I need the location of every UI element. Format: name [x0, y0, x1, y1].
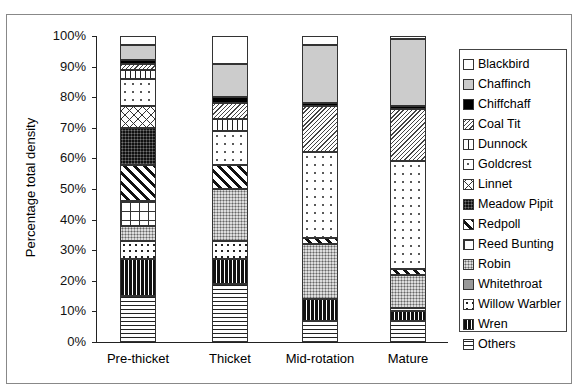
- legend-item: Robin: [463, 254, 563, 274]
- y-tick-label: 70%: [40, 120, 86, 135]
- legend-item: Willow Warbler: [463, 294, 563, 314]
- bar-segment: [120, 296, 156, 342]
- legend-item: Goldcrest: [463, 154, 563, 174]
- bar-segment: [120, 60, 156, 63]
- bar-segment: [390, 269, 426, 275]
- bar-segment: [120, 36, 156, 45]
- legend-item: Others: [463, 334, 563, 354]
- bar-segment: [390, 308, 426, 311]
- bar-segment: [212, 119, 248, 131]
- legend-swatch-icon: [463, 159, 474, 170]
- legend-item: Reed Bunting: [463, 234, 563, 254]
- legend-swatch-icon: [463, 219, 474, 230]
- y-tick-label: 0%: [40, 334, 86, 349]
- bar-segment: [120, 201, 156, 225]
- legend-item: Wren: [463, 314, 563, 334]
- x-axis: [96, 342, 448, 343]
- y-tick-label: 40%: [40, 212, 86, 227]
- bar-segment: [302, 103, 338, 106]
- y-tick-label: 100%: [40, 28, 86, 43]
- bar-segment: [302, 106, 338, 152]
- x-tick-label: Mature: [358, 351, 458, 366]
- bar-segment: [212, 259, 248, 283]
- legend-swatch-icon: [463, 339, 474, 350]
- bar-segment: [302, 321, 338, 342]
- legend-item: Dunnock: [463, 134, 563, 154]
- legend-swatch-icon: [463, 119, 474, 130]
- y-axis: [96, 36, 97, 343]
- legend-swatch-icon: [463, 179, 474, 190]
- bar-segment: [390, 321, 426, 342]
- legend-item: Chaffinch: [463, 74, 563, 94]
- bar-segment: [212, 64, 248, 98]
- bar-segment: [120, 70, 156, 79]
- bar-segment: [212, 131, 248, 165]
- legend: BlackbirdChaffinchChiffchaffCoal TitDunn…: [459, 49, 567, 332]
- legend-swatch-icon: [463, 139, 474, 150]
- bar-segment: [390, 109, 426, 161]
- legend-swatch-icon: [463, 199, 474, 210]
- y-tick-label: 20%: [40, 273, 86, 288]
- y-tick-label: 90%: [40, 59, 86, 74]
- legend-swatch-icon: [463, 59, 474, 70]
- bar-segment: [120, 79, 156, 107]
- bar-segment: [212, 241, 248, 259]
- bar-segment: [390, 106, 426, 109]
- legend-item: Chiffchaff: [463, 94, 563, 114]
- legend-item: Whitethroat: [463, 274, 563, 294]
- bar-segment: [302, 299, 338, 320]
- bar-segment: [212, 189, 248, 241]
- legend-swatch-icon: [463, 319, 474, 330]
- y-tick-label: 10%: [40, 303, 86, 318]
- bar-segment: [120, 165, 156, 202]
- y-tick-label: 60%: [40, 150, 86, 165]
- bar-segment: [120, 226, 156, 241]
- legend-swatch-icon: [463, 259, 474, 270]
- bar-segment: [302, 152, 338, 238]
- bar-segment: [120, 259, 156, 296]
- bar-segment: [212, 284, 248, 342]
- bar-segment: [120, 45, 156, 60]
- y-axis-title: Percentage total density: [23, 108, 38, 268]
- bar-segment: [302, 45, 338, 103]
- legend-swatch-icon: [463, 239, 474, 250]
- bar-segment: [302, 238, 338, 244]
- bar-segment: [212, 36, 248, 64]
- bar-segment: [120, 106, 156, 127]
- bar-segment: [302, 36, 338, 45]
- bar-segment: [390, 275, 426, 309]
- legend-item: Linnet: [463, 174, 563, 194]
- y-tick-label: 30%: [40, 242, 86, 257]
- y-tick-label: 50%: [40, 181, 86, 196]
- x-tick-label: Mid-rotation: [270, 351, 370, 366]
- bar-segment: [120, 128, 156, 165]
- bar-segment: [120, 64, 156, 70]
- bar-segment: [120, 241, 156, 259]
- legend-item: Redpoll: [463, 214, 563, 234]
- bar-segment: [390, 161, 426, 268]
- x-tick-label: Thicket: [180, 351, 280, 366]
- bar-segment: [302, 244, 338, 299]
- y-tick-label: 80%: [40, 89, 86, 104]
- x-tick-label: Pre-thicket: [88, 351, 188, 366]
- legend-swatch-icon: [463, 279, 474, 290]
- bar-segment: [390, 39, 426, 106]
- bar-segment: [390, 36, 426, 39]
- legend-item: Blackbird: [463, 54, 563, 74]
- chart: Percentage total density 0%10%20%30%40%5…: [0, 0, 576, 388]
- legend-item: Coal Tit: [463, 114, 563, 134]
- legend-swatch-icon: [463, 299, 474, 310]
- legend-item: Meadow Pipit: [463, 194, 563, 214]
- bar-segment: [390, 311, 426, 320]
- bar-segment: [212, 97, 248, 103]
- bar-segment: [212, 103, 248, 118]
- bar-segment: [212, 165, 248, 189]
- legend-swatch-icon: [463, 99, 474, 110]
- legend-swatch-icon: [463, 79, 474, 90]
